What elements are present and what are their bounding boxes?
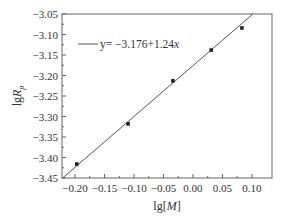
- data-point-marker: [75, 162, 79, 166]
- x-tick-label: 0.00: [183, 182, 203, 194]
- y-axis: −3.05−3.10−3.15−3.20−3.25−3.30−3.35−3.40…: [33, 8, 66, 184]
- data-point-marker: [126, 122, 130, 126]
- legend-label: y= −3.176+1.24x: [100, 38, 180, 51]
- x-tick-label: −0.15: [92, 182, 118, 194]
- chart: −0.20−0.15−0.10−0.050.000.050.10 −3.05−3…: [0, 0, 283, 220]
- x-tick-label: 0.05: [213, 182, 233, 194]
- legend: y= −3.176+1.24x: [78, 38, 180, 51]
- y-tick-label: −3.45: [33, 172, 59, 184]
- y-tick-label: −3.05: [33, 8, 59, 20]
- x-tick-label: −0.10: [121, 182, 147, 194]
- x-tick-label: −0.05: [151, 182, 177, 194]
- x-tick-label: 0.10: [242, 182, 262, 194]
- data-point-marker: [240, 26, 244, 30]
- y-axis-title: lgRp: [10, 86, 26, 107]
- data-point-marker: [171, 79, 175, 83]
- y-tick-label: −3.15: [33, 49, 59, 61]
- y-tick-label: −3.25: [33, 90, 59, 102]
- y-tick-label: −3.35: [33, 131, 59, 143]
- y-tick-label: −3.30: [33, 111, 59, 123]
- y-tick-label: −3.40: [33, 152, 59, 164]
- x-tick-label: −0.20: [62, 182, 88, 194]
- x-axis-title: lg[M]: [153, 199, 180, 213]
- data-point-marker: [209, 48, 213, 52]
- x-axis: −0.20−0.15−0.10−0.050.000.050.10: [62, 174, 262, 194]
- y-tick-label: −3.20: [33, 70, 59, 82]
- y-tick-label: −3.10: [33, 29, 59, 41]
